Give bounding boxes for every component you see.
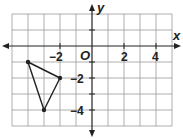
x-axis-label: x — [172, 28, 181, 43]
x-axis-left-arrow-icon — [2, 43, 9, 49]
y-tick-label-neg4: −4 — [70, 104, 84, 118]
x-axis-right-arrow-icon — [174, 43, 181, 49]
x-tick-label-2: 2 — [121, 50, 128, 64]
x-tick-label-4: 4 — [152, 50, 159, 64]
y-tick-label-neg2: −2 — [70, 72, 84, 86]
x-tick-label-neg2: −2 — [49, 50, 63, 64]
vertex-point-c — [42, 108, 46, 112]
vertex-point-a — [26, 60, 30, 64]
y-axis-down-arrow-icon — [89, 130, 95, 137]
vertex-point-b — [58, 76, 62, 80]
origin-label: O — [80, 48, 90, 63]
coordinate-plane: y x O −2 2 4 −2 −4 — [0, 0, 183, 139]
y-axis-up-arrow-icon — [89, 4, 95, 11]
y-axis-label: y — [96, 0, 105, 15]
